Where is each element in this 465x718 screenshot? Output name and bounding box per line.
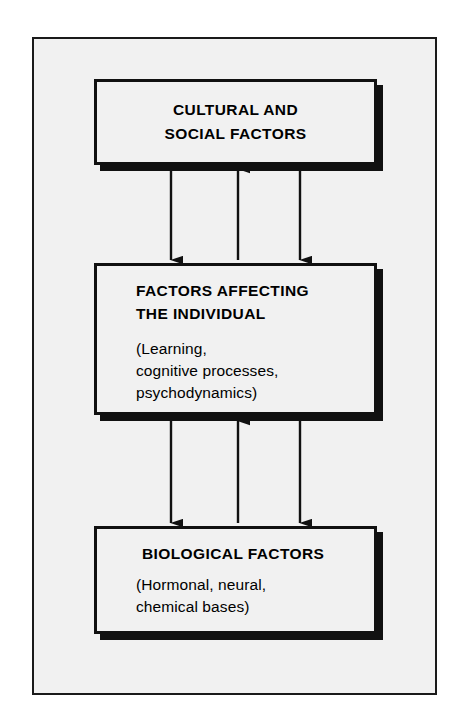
connector-top-to-middle <box>171 169 300 260</box>
node-biological-subtitle: (Hormonal, neural, chemical bases) <box>136 574 374 618</box>
connector-middle-to-bottom <box>171 421 300 523</box>
node-biological-factors: BIOLOGICAL FACTORS (Hormonal, neural, ch… <box>94 526 377 634</box>
node-cultural-social: CULTURAL AND SOCIAL FACTORS <box>94 79 377 165</box>
figure-frame: CULTURAL AND SOCIAL FACTORS FACTORS AFFE… <box>32 37 437 695</box>
node-factors-affecting-individual: FACTORS AFFECTING THE INDIVIDUAL (Learni… <box>94 263 377 415</box>
node-biological-title: BIOLOGICAL FACTORS <box>136 543 374 566</box>
node-individual-title: FACTORS AFFECTING THE INDIVIDUAL <box>136 280 374 326</box>
node-individual-subtitle: (Learning, cognitive processes, psychody… <box>136 338 374 404</box>
node-cultural-social-title: CULTURAL AND SOCIAL FACTORS <box>165 98 307 146</box>
